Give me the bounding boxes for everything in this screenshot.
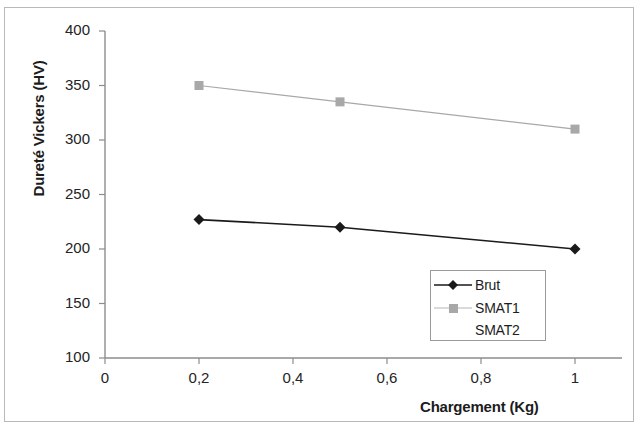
series-layer (194, 81, 581, 255)
legend-label-brut: Brut (475, 277, 500, 293)
series-line-smat1 (199, 86, 575, 130)
data-point-smat1 (336, 97, 345, 106)
line-chart: Dureté Vickers (HV) Chargement (Kg) 1001… (0, 0, 640, 429)
chart-figure: Dureté Vickers (HV) Chargement (Kg) 1001… (0, 0, 640, 429)
y-tick-label: 300 (42, 130, 90, 147)
y-tick-label: 100 (42, 348, 90, 365)
legend-label-smat2: SMAT2 (475, 322, 520, 338)
legend-marker-square-icon (431, 300, 475, 316)
legend-marker-diamond-icon (431, 277, 475, 293)
x-tick-label: 0,4 (271, 369, 315, 386)
data-point-smat1 (571, 125, 580, 134)
y-tick-label: 400 (42, 21, 90, 38)
legend-item-smat2[interactable]: SMAT2 (431, 319, 547, 341)
series-line-brut (199, 220, 575, 249)
x-tick-marks (105, 358, 575, 364)
y-tick-label: 250 (42, 185, 90, 202)
data-point-brut (335, 222, 346, 233)
data-point-brut (194, 214, 205, 225)
x-tick-label: 0,8 (459, 369, 503, 386)
y-tick-label: 200 (42, 239, 90, 256)
y-tick-label: 150 (42, 294, 90, 311)
x-tick-label: 0 (83, 369, 127, 386)
x-tick-label: 0,6 (365, 369, 409, 386)
data-point-brut (570, 244, 581, 255)
y-tick-label: 350 (42, 76, 90, 93)
chart-legend: Brut SMAT1 SMAT2 (430, 270, 546, 341)
x-axis-label: Chargement (Kg) (420, 398, 539, 415)
x-tick-label: 0,2 (177, 369, 221, 386)
plot-canvas (0, 0, 640, 429)
legend-marker-none-icon (431, 322, 475, 338)
legend-item-brut[interactable]: Brut (431, 274, 547, 296)
x-tick-label: 1 (553, 369, 597, 386)
legend-label-smat1: SMAT1 (475, 300, 520, 316)
y-tick-marks (99, 31, 105, 358)
data-point-smat1 (195, 81, 204, 90)
legend-item-smat1[interactable]: SMAT1 (431, 297, 547, 319)
